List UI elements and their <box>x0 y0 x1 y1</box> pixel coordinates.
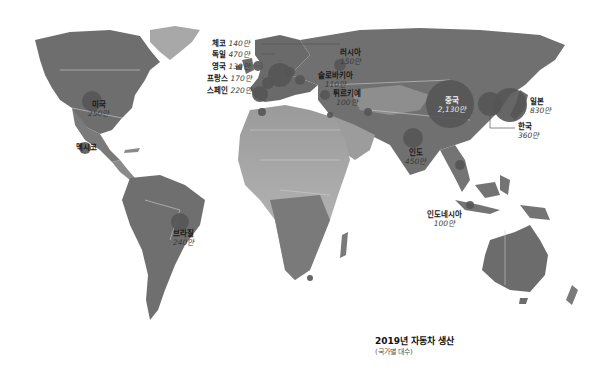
bubble-czechia <box>285 67 295 77</box>
label-china-name: 중국 <box>432 96 472 105</box>
bubble-south-africa <box>307 275 313 281</box>
label-brazil: 브라질 240만 <box>173 229 194 247</box>
south-america <box>122 175 205 320</box>
label-france-value: 170만 <box>230 74 251 83</box>
label-czechia: 체코 140만 <box>212 39 250 48</box>
label-slovakia-value: 110만 <box>318 80 353 89</box>
label-czechia-value: 140만 <box>228 39 249 48</box>
bubble-indonesia <box>466 201 474 209</box>
label-france: 프랑스 170만 <box>207 74 252 83</box>
bubble-morocco <box>258 108 266 116</box>
label-indonesia-value: 100만 <box>427 219 462 228</box>
bubble-slovakia <box>295 75 305 85</box>
label-usa-name: 미국 <box>88 100 109 109</box>
label-turkey-value: 100만 <box>333 98 361 107</box>
label-korea-value: 360만 <box>518 131 539 140</box>
label-korea: 한국 360만 <box>518 122 539 140</box>
bubble-iran <box>364 108 372 116</box>
label-russia: 러시아 150만 <box>340 48 361 66</box>
label-spain-name: 스페인 <box>207 86 228 95</box>
map-subtitle: (국가별 대수) <box>375 346 413 356</box>
label-slovakia: 슬로바키아 110만 <box>318 71 353 89</box>
world-map <box>0 0 611 370</box>
bubble-egypt <box>327 112 333 118</box>
label-uk: 영국 130만 <box>212 62 250 71</box>
label-russia-name: 러시아 <box>340 48 361 57</box>
label-china: 중국 2,130만 <box>432 96 472 114</box>
label-turkey-name: 튀르키예 <box>333 89 361 98</box>
label-usa-value: 250만 <box>88 109 109 118</box>
southeast-asia <box>440 145 550 220</box>
label-turkey: 튀르키예 100만 <box>333 89 361 107</box>
madagascar <box>340 232 348 258</box>
label-indonesia: 인도네시아 100만 <box>427 210 462 228</box>
label-germany-name: 독일 <box>212 50 226 59</box>
label-spain-value: 220만 <box>230 86 251 95</box>
label-brazil-value: 240만 <box>173 238 194 247</box>
label-france-name: 프랑스 <box>207 74 228 83</box>
label-india-value: 450만 <box>405 157 426 166</box>
label-mexico: 멕시코 <box>76 143 97 152</box>
new-zealand <box>566 285 578 305</box>
label-slovakia-name: 슬로바키아 <box>318 71 353 80</box>
bubble-india <box>403 128 423 148</box>
label-uk-name: 영국 <box>212 62 226 71</box>
label-japan: 일본 830만 <box>530 97 551 115</box>
label-mexico-name: 멕시코 <box>76 143 97 152</box>
bubble-japan <box>493 88 527 122</box>
label-india-name: 인도 <box>405 148 426 157</box>
australia <box>482 225 548 304</box>
label-usa: 미국 250만 <box>88 100 109 118</box>
label-japan-value: 830만 <box>530 106 551 115</box>
label-japan-name: 일본 <box>530 97 551 106</box>
label-czechia-name: 체코 <box>212 39 226 48</box>
label-russia-value: 150만 <box>340 57 361 66</box>
label-spain: 스페인 220만 <box>207 86 252 95</box>
label-indonesia-name: 인도네시아 <box>427 210 462 219</box>
label-germany-value: 470만 <box>228 50 249 59</box>
label-korea-name: 한국 <box>518 122 539 131</box>
bubble-thailand <box>455 160 465 170</box>
greenland <box>150 26 200 60</box>
bubble-spain <box>252 86 268 102</box>
label-uk-value: 130만 <box>228 62 249 71</box>
label-india: 인도 450만 <box>405 148 426 166</box>
label-brazil-name: 브라질 <box>173 229 194 238</box>
label-germany: 독일 470만 <box>212 50 250 59</box>
label-china-value: 2,130만 <box>432 105 472 114</box>
bubble-turkey <box>320 90 330 100</box>
central-america <box>112 160 135 180</box>
